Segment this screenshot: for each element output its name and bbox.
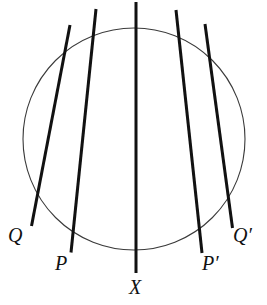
point-label-x: X — [129, 277, 141, 297]
circle-outline — [23, 28, 245, 250]
point-label-p: P — [55, 253, 67, 273]
chord-pencil — [32, 2, 233, 273]
point-label-p-prime: P′ — [202, 253, 219, 273]
point-label-q-prime: Q′ — [233, 225, 252, 245]
point-label-q: Q — [8, 225, 22, 245]
line-q-prime — [205, 24, 233, 228]
line-p-prime — [176, 10, 202, 253]
geometry-figure: Q P X P′ Q′ — [0, 0, 267, 305]
geometry-canvas — [0, 0, 267, 305]
line-q — [32, 25, 71, 226]
